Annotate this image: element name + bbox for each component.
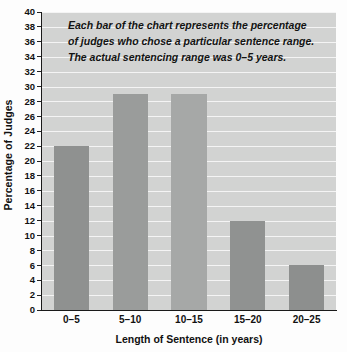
x-axis-tick-label: 10–15 [160, 314, 219, 325]
y-axis-tick: 28 [24, 95, 41, 107]
y-axis-tick: 36 [24, 36, 41, 48]
y-axis-tick-label: 4 [30, 275, 35, 285]
y-axis-tick: 24 [24, 125, 41, 137]
y-axis-tick-label: 10 [24, 231, 35, 241]
y-axis-tick: 8 [30, 244, 41, 256]
y-axis-tick: 10 [24, 230, 41, 242]
y-axis-tick-label: 0 [30, 305, 35, 315]
y-axis-tick: 40 [24, 6, 41, 18]
y-axis-tick-label: 12 [24, 216, 35, 226]
x-axis-tick-label: 0–5 [42, 314, 101, 325]
y-axis-tick-label: 32 [24, 67, 35, 77]
y-axis-tick: 18 [24, 170, 41, 182]
y-axis-tick-label: 34 [24, 52, 35, 62]
bar [230, 221, 265, 310]
y-axis-tick-label: 2 [30, 290, 35, 300]
bar [113, 94, 148, 310]
x-axis-ticks: 0–55–1010–1515–2020–25 [42, 314, 336, 325]
bar [54, 146, 89, 310]
y-axis-tick: 34 [24, 51, 41, 63]
y-axis-tick: 12 [24, 215, 41, 227]
y-axis-tick-label: 18 [24, 171, 35, 181]
x-axis-tick-label: 5–10 [101, 314, 160, 325]
y-axis-title: Percentage of Judges [0, 0, 16, 310]
y-axis-tick: 20 [24, 155, 41, 167]
y-axis-title-label: Percentage of Judges [2, 99, 14, 210]
y-axis-tick-label: 36 [24, 37, 35, 47]
y-axis-tick-label: 22 [24, 141, 35, 151]
y-axis-tick-label: 6 [30, 261, 35, 271]
y-axis-tick-label: 30 [24, 82, 35, 92]
y-axis-tick-label: 28 [24, 97, 35, 107]
y-axis-tick-label: 8 [30, 246, 35, 256]
y-axis-tick-label: 20 [24, 156, 35, 166]
y-axis-tick: 4 [30, 274, 41, 286]
x-axis-tick-label: 20–25 [277, 314, 336, 325]
y-axis-tick: 22 [24, 140, 41, 152]
y-axis-tick: 6 [30, 259, 41, 271]
y-axis-tick: 32 [24, 66, 41, 78]
y-axis-tick-label: 40 [24, 7, 35, 17]
bar-chart-figure: Percentage of Judges 4038363432302826242… [0, 0, 347, 352]
y-axis-tick-label: 38 [24, 22, 35, 32]
x-axis-title: Length of Sentence (in years) [42, 333, 336, 345]
y-axis-tick-label: 24 [24, 126, 35, 136]
x-axis-tick-label: 15–20 [218, 314, 277, 325]
y-axis-tick: 2 [30, 289, 41, 301]
bar [289, 265, 324, 310]
y-axis-tick-label: 14 [24, 201, 35, 211]
y-axis-tick: 0 [30, 304, 41, 316]
x-axis-line [41, 310, 337, 311]
y-axis-tick-label: 26 [24, 112, 35, 122]
annotation-line: The actual sentencing range was 0–5 year… [68, 49, 318, 65]
annotation-line: Each bar of the chart represents the per… [68, 17, 318, 33]
y-axis-ticks: 4038363432302826242220181614121086420 [16, 12, 41, 310]
bar [171, 94, 206, 310]
y-axis-tick: 14 [24, 200, 41, 212]
y-axis-tick: 30 [24, 81, 41, 93]
chart-annotation: Each bar of the chart represents the per… [68, 17, 318, 65]
y-axis-tick: 38 [24, 21, 41, 33]
y-axis-tick: 26 [24, 110, 41, 122]
annotation-line: of judges who chose a particular sentenc… [68, 33, 318, 49]
y-axis-tick-label: 16 [24, 186, 35, 196]
y-axis-tick: 16 [24, 185, 41, 197]
